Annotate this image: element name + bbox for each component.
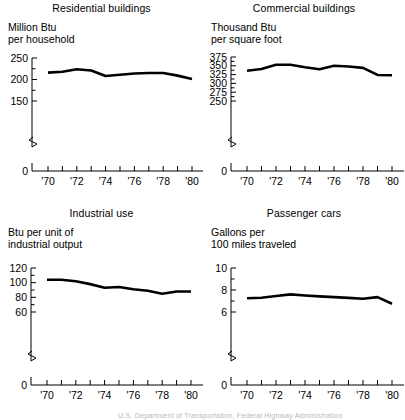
x-tick-label: '78 [356, 175, 370, 187]
x-tick-label: '70 [41, 175, 55, 187]
plot-area-commercial: 3753503253002752500'70'72'74'76'78'80 [203, 0, 405, 205]
y-tick-label-zero: 0 [22, 165, 28, 177]
x-tick-label: '76 [327, 389, 341, 401]
x-tick-label: '76 [128, 175, 142, 187]
data-series-line [48, 69, 192, 79]
x-tick-label: '76 [327, 175, 341, 187]
x-tick-label: '74 [98, 389, 112, 401]
y-tick-label-zero: 0 [221, 165, 227, 177]
x-tick-label: '78 [356, 389, 370, 401]
line-chart-industrial: 12010080600'70'72'74'76'78'80 [0, 205, 203, 419]
plot-area-industrial: 12010080600'70'72'74'76'78'80 [0, 205, 203, 419]
x-tick-label: '80 [385, 389, 399, 401]
x-tick-label: '72 [269, 389, 283, 401]
plot-area-residential: 2502001500'70'72'74'76'78'80 [0, 0, 203, 205]
y-tick-label: 6 [221, 306, 227, 318]
x-tick-label: '80 [385, 175, 399, 187]
y-tick-label: 60 [15, 306, 27, 318]
x-tick-label: '72 [70, 175, 84, 187]
x-tick-label: '70 [240, 175, 254, 187]
x-tick-label: '72 [69, 389, 83, 401]
y-tick-label: 120 [9, 262, 27, 274]
x-tick-label: '70 [240, 389, 254, 401]
panel-passenger: Passenger cars Gallons per 100 miles tra… [203, 205, 405, 419]
x-tick-label: '74 [298, 389, 312, 401]
x-tick-label: '80 [185, 175, 199, 187]
y-tick-label: 250 [209, 95, 227, 107]
source-footnote: U.S. Department of Transportation, Feder… [118, 411, 342, 420]
y-tick-label: 80 [15, 291, 27, 303]
y-tick-label: 250 [10, 52, 28, 64]
x-tick-label: '74 [298, 175, 312, 187]
x-tick-label: '80 [184, 389, 198, 401]
y-tick-label: 150 [10, 95, 28, 107]
x-tick-label: '76 [127, 389, 141, 401]
plot-area-passenger: 10860'70'72'74'76'78'80 [203, 205, 405, 419]
panel-residential: Residential buildings Million Btu per ho… [0, 0, 203, 205]
y-tick-label: 8 [221, 284, 227, 296]
data-series-line [247, 65, 392, 76]
data-series-line [247, 294, 392, 303]
x-tick-label: '70 [40, 389, 54, 401]
y-tick-label-zero: 0 [221, 379, 227, 391]
x-tick-label: '74 [99, 175, 113, 187]
line-chart-passenger: 10860'70'72'74'76'78'80 [203, 205, 405, 419]
y-tick-label: 100 [9, 276, 27, 288]
panel-commercial: Commercial buildings Thousand Btu per sq… [203, 0, 405, 205]
panel-industrial: Industrial use Btu per unit of industria… [0, 205, 203, 419]
y-tick-label: 10 [215, 262, 227, 274]
y-tick-label-zero: 0 [21, 379, 27, 391]
x-tick-label: '78 [156, 175, 170, 187]
line-chart-residential: 2502001500'70'72'74'76'78'80 [0, 0, 203, 205]
x-tick-label: '78 [155, 389, 169, 401]
y-tick-label: 200 [10, 73, 28, 85]
line-chart-commercial: 3753503253002752500'70'72'74'76'78'80 [203, 0, 405, 205]
data-series-line [47, 280, 191, 294]
x-tick-label: '72 [269, 175, 283, 187]
